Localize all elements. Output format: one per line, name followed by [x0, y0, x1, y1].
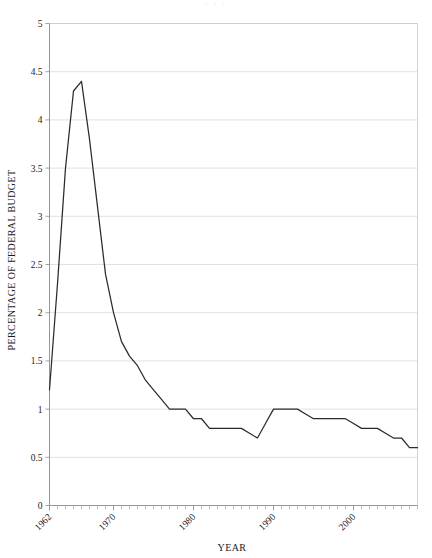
y-tick-label: 4 [38, 115, 43, 125]
y-tick-label: 3 [38, 212, 43, 222]
y-tick-label: 1.5 [31, 356, 43, 366]
y-tick-label: 0 [38, 501, 43, 511]
y-axis-ticks [46, 24, 50, 506]
gridlines-group [50, 24, 418, 458]
x-tick-label: 1970 [97, 512, 118, 533]
y-tick-label: 3.5 [31, 164, 43, 174]
x-tick-label: 1980 [177, 512, 198, 533]
chart-figure: . . . 00.511.522.533.544.55 196219701980… [0, 0, 432, 558]
y-tick-label: 0.5 [31, 453, 43, 463]
y-tick-label: 5 [38, 19, 43, 29]
y-axis-title: PERCENTAGE OF FEDERAL BUDGET [6, 170, 17, 351]
y-axis-tick-labels: 00.511.522.533.544.55 [31, 19, 43, 511]
x-axis-title: YEAR [218, 542, 247, 553]
x-tick-label: 1990 [257, 512, 278, 533]
line-chart-canvas: 00.511.522.533.544.55 196219701980199020… [0, 0, 432, 558]
y-tick-label: 4.5 [31, 67, 43, 77]
x-axis-minor-ticks [50, 506, 418, 510]
y-tick-label: 1 [38, 405, 43, 415]
x-axis-tick-labels: 19621970198019902000 [33, 512, 358, 533]
y-tick-label: 2.5 [31, 260, 43, 270]
x-tick-label: 2000 [337, 512, 358, 533]
y-tick-label: 2 [38, 308, 43, 318]
ghost-header-text: . . . [0, 0, 432, 6]
x-tick-label: 1962 [33, 512, 54, 533]
